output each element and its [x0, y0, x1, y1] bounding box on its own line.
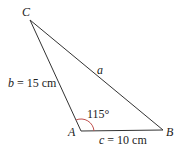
vertex-label-a: A	[67, 125, 76, 139]
angle-a-label: 115°	[87, 107, 110, 121]
vertex-label-b: B	[166, 125, 174, 139]
side-label-b: b = 15 cm	[8, 76, 57, 90]
side-label-a: a	[97, 63, 103, 77]
triangle-diagram: C A B a b = 15 cm c = 10 cm 115°	[0, 0, 179, 153]
vertex-label-c: C	[22, 5, 31, 19]
side-label-c: c = 10 cm	[99, 133, 147, 147]
